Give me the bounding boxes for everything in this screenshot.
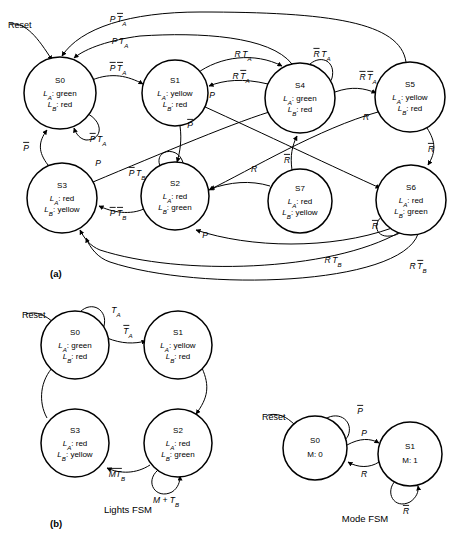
- edge-label-text: P TA: [110, 63, 127, 76]
- edge-label: R TA: [359, 71, 376, 84]
- fsm-figure-svg: S0LA: greenLB: redS1LA: yellowLB: redS4L…: [0, 0, 470, 536]
- edge-label-text: P: [357, 406, 363, 416]
- state-label: S5: [405, 80, 415, 89]
- edge-label-text: P TA: [110, 14, 127, 27]
- state-node-s3[interactable]: S3LA: redLB: yellow: [27, 163, 97, 233]
- edge-label: R: [363, 112, 369, 122]
- edge-label: P: [187, 119, 193, 130]
- edge-label-text: R: [251, 164, 257, 174]
- reset-label-lights: Reset: [22, 310, 46, 320]
- state-node-s0[interactable]: S0LA: greenLB: red: [41, 311, 109, 379]
- state-node-s1[interactable]: S1LA: yellowLB: red: [144, 311, 212, 379]
- state-output: M: 1: [402, 456, 418, 465]
- state-label: S6: [406, 183, 416, 192]
- state-label: S2: [170, 179, 180, 188]
- edge-label-text: P: [187, 120, 193, 130]
- state-label: S7: [295, 184, 305, 193]
- mode-fsm-caption: Mode FSM: [342, 513, 389, 524]
- state-node-s7[interactable]: S7LA: redLB: yellow: [268, 169, 332, 233]
- state-node-s5[interactable]: S5LA: yellowLB: red: [375, 62, 445, 132]
- edge-label: R: [372, 220, 378, 231]
- edge-label: MTB: [109, 468, 125, 481]
- edge-label: R TB: [409, 260, 426, 273]
- edge-label-text: R TB: [324, 255, 341, 268]
- edge-label-text: P: [202, 230, 208, 240]
- state-node-s2[interactable]: S2LA: redLB: green: [141, 162, 209, 230]
- edge-label-text: TA: [123, 326, 132, 339]
- edge-label: P: [95, 158, 101, 168]
- edge-label-text: MTB: [109, 469, 125, 482]
- edge-label: P TB: [129, 167, 146, 180]
- selfloop-m-s1-head: [410, 486, 418, 502]
- transition-s0-s1: [92, 76, 143, 84]
- edge-label-text: R: [428, 144, 434, 154]
- transition-l-s0-s1: [107, 338, 146, 343]
- diagram-a-edges: [10, 12, 434, 280]
- lights-fsm-caption: Lights FSM: [104, 504, 152, 515]
- edge-label: R: [284, 154, 290, 165]
- edge-label: R: [428, 143, 434, 154]
- edge-label: P TA: [90, 133, 107, 146]
- state-label: S1: [405, 442, 415, 451]
- edge-label: P: [23, 142, 29, 153]
- state-node-s6[interactable]: S6LA: redLB: green: [376, 165, 446, 235]
- edge-label-text: P: [23, 143, 29, 153]
- transition-l-s3-s0: [42, 366, 54, 418]
- edge-label-text: R: [363, 112, 369, 122]
- edge-label-text: R TA: [234, 49, 251, 62]
- edge-label-text: M + TB: [153, 495, 179, 508]
- state-label: S2: [173, 426, 183, 435]
- reset-label-mode: Reset: [262, 412, 286, 422]
- state-label: S0: [310, 436, 320, 445]
- transition-m-s1-s0: [348, 462, 379, 467]
- selfloop-l-s2-head: [172, 476, 180, 492]
- edge-label-text: P TB: [110, 208, 127, 221]
- state-node-s3[interactable]: S3LA: redLB: yellow: [41, 409, 109, 477]
- transition-s4-s1: [209, 80, 268, 86]
- state-node-s2[interactable]: S2LA: redLB: green: [144, 409, 212, 477]
- edge-label-text: R: [361, 469, 367, 479]
- state-circle: [378, 422, 442, 486]
- transition-s4-s5: [335, 88, 376, 93]
- edge-label: R: [361, 469, 367, 479]
- edge-label: P: [357, 405, 363, 416]
- state-node-s1[interactable]: S1LA: yellowLB: red: [142, 60, 208, 126]
- edge-label: R TA: [232, 70, 249, 83]
- edge-label-text: R TA: [359, 72, 376, 85]
- edge-label: P TA: [110, 62, 127, 75]
- edge-label-text: R TB: [409, 261, 426, 274]
- edge-label: R: [251, 164, 257, 174]
- edge-label: P TB: [110, 207, 127, 220]
- transition-s7-s4: [291, 136, 297, 170]
- edge-label-text: P: [361, 428, 367, 438]
- state-node-s0[interactable]: S0M: 0: [283, 416, 347, 480]
- edge-label: P: [202, 230, 208, 240]
- edge-label: P: [361, 428, 367, 438]
- edge-label-text: P TA: [90, 134, 107, 147]
- state-label: S3: [57, 181, 67, 190]
- transition-l-s1-s2: [196, 368, 207, 414]
- state-output: M: 0: [307, 450, 323, 459]
- transition-s7-s2: [210, 182, 270, 189]
- state-node-s0[interactable]: S0LA: greenLB: red: [24, 57, 96, 129]
- state-label: S4: [295, 81, 305, 90]
- edge-label-text: R TA: [232, 71, 249, 84]
- edge-label-text: P TB: [129, 168, 146, 181]
- state-node-s4[interactable]: S4LA: greenLB: red: [265, 63, 335, 133]
- part-a-label: (a): [50, 268, 62, 279]
- edge-label: R TA: [234, 49, 251, 62]
- edge-label-text: R: [284, 155, 290, 165]
- edge-label: M + TB: [153, 495, 179, 508]
- edge-label: P TA: [110, 13, 127, 26]
- edge-label-text: TA: [111, 305, 120, 318]
- state-label: S1: [173, 328, 183, 337]
- state-node-s1[interactable]: S1M: 1: [378, 422, 442, 486]
- transition-s6-s3-b: [86, 234, 418, 280]
- state-label: S1: [170, 76, 180, 85]
- edge-label-text: R: [403, 506, 409, 516]
- edge-label: TA: [111, 305, 120, 318]
- figure-root: S0LA: greenLB: redS1LA: yellowLB: redS4L…: [0, 0, 470, 536]
- edge-label: P: [209, 90, 215, 100]
- edge-label: R: [403, 505, 409, 516]
- edge-label: TA: [123, 325, 132, 338]
